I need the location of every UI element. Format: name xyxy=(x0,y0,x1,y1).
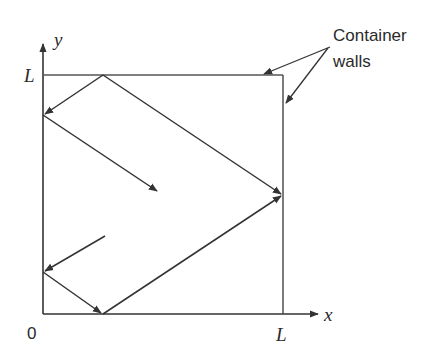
trajectory-segment xyxy=(43,272,101,313)
annotation-line1: Container xyxy=(333,26,407,45)
trajectory-segment xyxy=(43,115,157,191)
y-end-label: L xyxy=(23,65,35,86)
diagram-canvas: y L x L 0 Container walls xyxy=(0,0,448,360)
x-end-label: L xyxy=(275,324,287,345)
trajectory-segment xyxy=(45,236,105,271)
trajectory-segment xyxy=(45,75,103,114)
annotation-line2: walls xyxy=(332,52,371,71)
x-axis-label: x xyxy=(323,304,333,325)
y-axis-label: y xyxy=(52,29,63,50)
trajectory-segment xyxy=(103,196,281,314)
particle-trajectory xyxy=(43,75,281,314)
trajectory-segment xyxy=(103,75,281,194)
origin-label: 0 xyxy=(27,324,36,343)
